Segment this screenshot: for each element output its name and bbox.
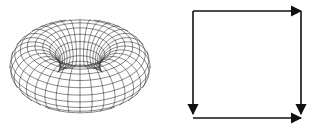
torus-figure bbox=[0, 0, 161, 130]
fundamental-square-figure bbox=[161, 0, 322, 130]
fundamental-square bbox=[161, 0, 322, 130]
torus-wireframe bbox=[0, 0, 161, 130]
